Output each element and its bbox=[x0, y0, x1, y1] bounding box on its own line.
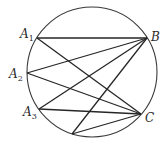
chord-diagram: A1A2A3BC bbox=[0, 0, 162, 143]
label-a3: A3 bbox=[22, 105, 37, 121]
label-a2: A2 bbox=[8, 67, 23, 83]
circle-outline bbox=[27, 7, 157, 137]
chord-segments bbox=[27, 38, 147, 134]
label-a1: A1 bbox=[19, 27, 34, 43]
segment-a3-b bbox=[39, 38, 147, 109]
label-c: C bbox=[145, 111, 154, 125]
point-labels: A1A2A3BC bbox=[8, 27, 160, 125]
label-b: B bbox=[150, 30, 160, 44]
